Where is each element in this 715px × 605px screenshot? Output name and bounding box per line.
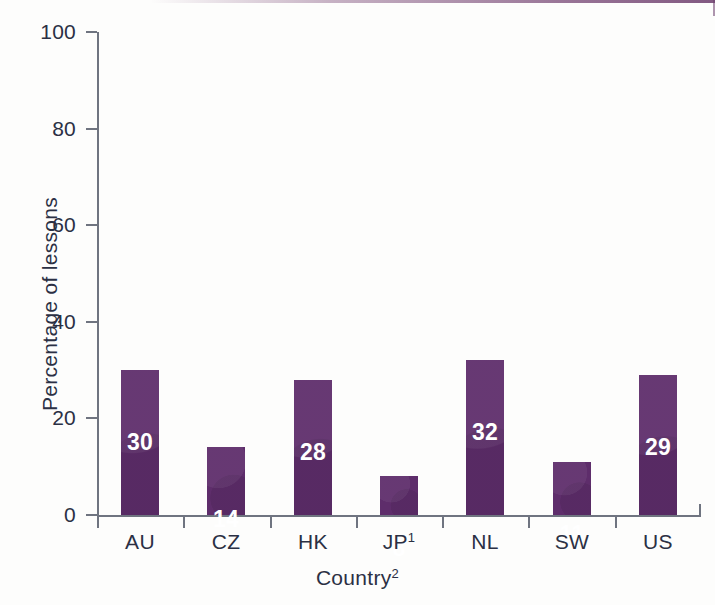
x-axis-tick (183, 515, 185, 528)
x-axis-end-tick (699, 504, 701, 517)
x-axis-tick (356, 515, 358, 528)
y-axis-tick (86, 321, 97, 323)
y-axis-tick (86, 224, 97, 226)
bar-CZ (207, 447, 245, 515)
y-axis-line (97, 32, 99, 517)
x-axis-label-JP1: JP1 (349, 531, 449, 552)
bar-value-label: 28 (273, 441, 353, 464)
y-axis-title: Percentage of lessons (38, 154, 62, 454)
x-axis-tick (270, 515, 272, 528)
x-axis-tick (528, 515, 530, 528)
x-axis-tick (615, 515, 617, 528)
x-axis-label-SW: SW (522, 531, 622, 552)
y-axis-tick-label: 80 (16, 118, 76, 139)
bar-JP1 (380, 476, 418, 515)
y-axis-tick (86, 514, 97, 516)
x-axis-label-CZ: CZ (176, 531, 276, 552)
x-axis-tick (97, 515, 99, 528)
x-axis-label-US: US (608, 531, 708, 552)
x-axis-title: Country2 (0, 566, 715, 590)
plot-area: 020406080100 3014288321129 AUCZHKJP1NLSW… (0, 0, 715, 605)
x-axis-label-AU: AU (90, 531, 190, 552)
x-axis-tick (442, 515, 444, 528)
y-axis-tick-label: 0 (16, 504, 76, 525)
chart-figure: 020406080100 3014288321129 AUCZHKJP1NLSW… (0, 0, 715, 605)
y-axis-tick (86, 417, 97, 419)
bar-value-label: 30 (100, 431, 180, 454)
bar-value-label: 29 (618, 436, 698, 459)
bar-value-label: 32 (445, 421, 525, 444)
x-axis-label-NL: NL (435, 531, 535, 552)
bar-SW (553, 462, 591, 515)
x-axis-label-HK: HK (263, 531, 363, 552)
y-axis-tick (86, 128, 97, 130)
y-axis-tick-label: 100 (16, 21, 76, 42)
bar-value-label: 14 (186, 508, 266, 531)
y-axis-tick (86, 31, 97, 33)
